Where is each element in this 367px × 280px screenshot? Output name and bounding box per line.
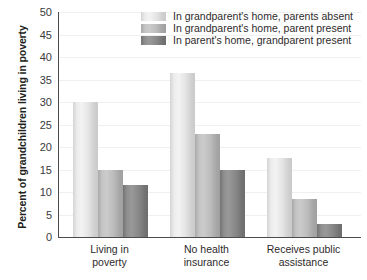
y-tick-label: 30 xyxy=(6,97,52,107)
bar xyxy=(317,224,342,238)
x-tick-label-line: Living in xyxy=(55,243,165,256)
legend-item: In grandparent's home, parents absent xyxy=(141,11,353,22)
y-tick-label: 15 xyxy=(6,165,52,175)
y-tick-label: 10 xyxy=(6,187,52,197)
y-tick-label: 0 xyxy=(6,232,52,242)
bar xyxy=(98,170,123,238)
bar xyxy=(267,158,292,237)
legend-label: In parent's home, grandparent present xyxy=(173,35,351,46)
y-tick-label: 40 xyxy=(6,52,52,62)
gridline xyxy=(59,125,361,126)
bar-chart: Percent of grandchildren living in pover… xyxy=(0,0,367,280)
x-tick-label-line: poverty xyxy=(55,256,165,269)
legend-label: In grandparent's home, parent present xyxy=(173,23,351,34)
legend-item: In grandparent's home, parent present xyxy=(141,23,353,34)
y-tick-label: 50 xyxy=(6,7,52,17)
legend-swatch xyxy=(141,36,166,45)
gridline xyxy=(59,57,361,58)
y-axis-tick-labels: 05101520253035404550 xyxy=(0,12,52,237)
bar xyxy=(292,199,317,237)
legend-swatch xyxy=(141,12,166,21)
x-tick-label-line: assistance xyxy=(249,256,359,269)
y-tick-label: 45 xyxy=(6,30,52,40)
gridline xyxy=(59,80,361,81)
x-tick-label: Living inpoverty xyxy=(55,243,165,269)
legend-item: In parent's home, grandparent present xyxy=(141,35,353,46)
bar xyxy=(123,185,148,237)
legend-swatch xyxy=(141,24,166,33)
bar xyxy=(73,102,98,237)
y-tick-label: 35 xyxy=(6,75,52,85)
x-tick-label: Receives publicassistance xyxy=(249,243,359,269)
y-tick-label: 5 xyxy=(6,210,52,220)
y-tick-label: 20 xyxy=(6,142,52,152)
x-tick-label-line: Receives public xyxy=(249,243,359,256)
y-tick-label: 25 xyxy=(6,120,52,130)
bar xyxy=(220,170,245,238)
bar xyxy=(195,134,220,238)
gridline xyxy=(59,102,361,103)
x-tick-label: No healthinsurance xyxy=(152,243,262,269)
legend-label: In grandparent's home, parents absent xyxy=(173,11,353,22)
bar xyxy=(170,73,195,237)
x-tick-label-line: insurance xyxy=(152,256,262,269)
legend: In grandparent's home, parents absentIn … xyxy=(141,11,353,46)
x-tick-label-line: No health xyxy=(152,243,262,256)
